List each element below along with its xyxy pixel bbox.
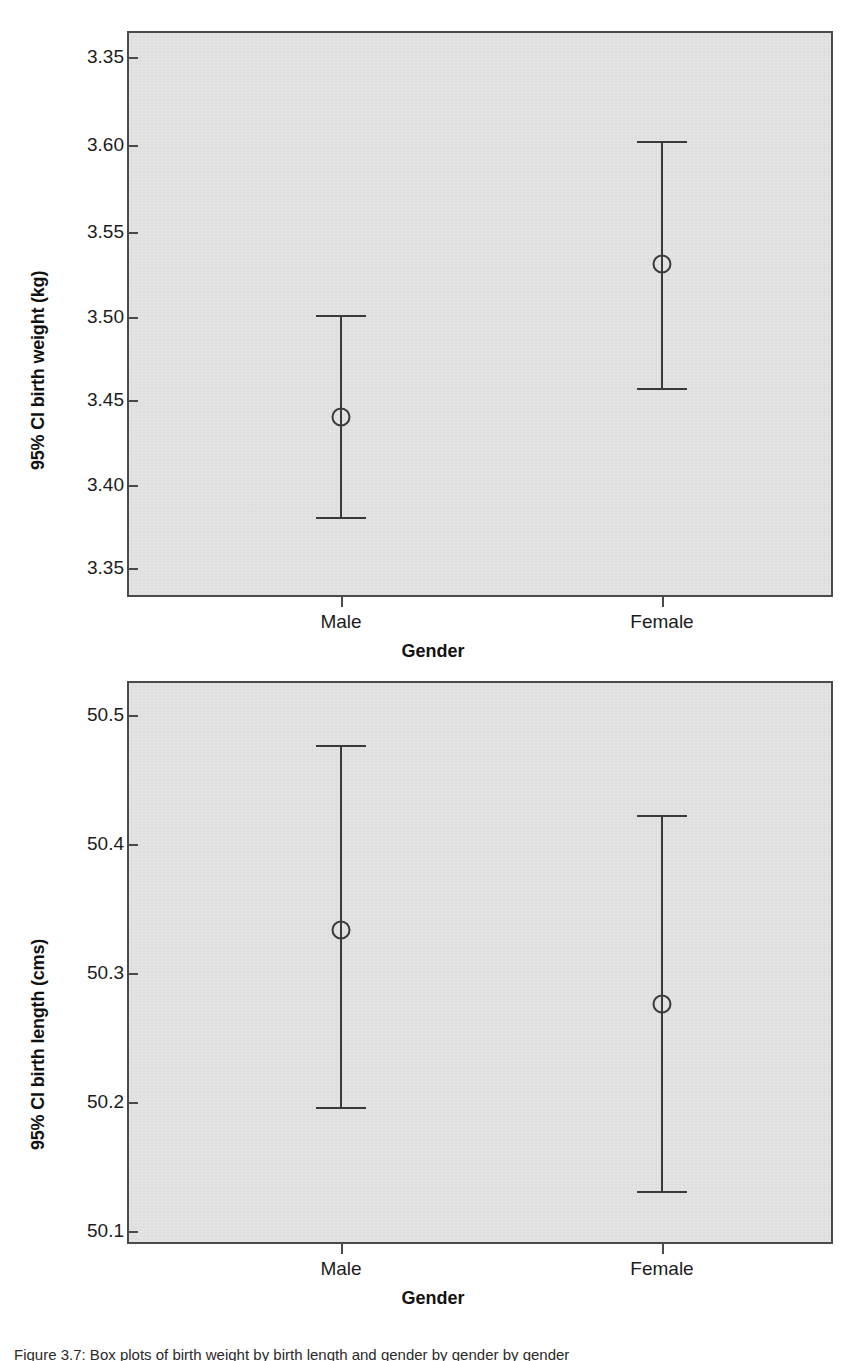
- y-tick-mark: [127, 317, 138, 319]
- y-tick-label: 3.45: [87, 389, 124, 411]
- y-tick-label: 50.2: [87, 1091, 124, 1113]
- figure-panel: 95% CI birth weight (kg) 3.353.603.553.5…: [0, 0, 866, 1361]
- chart-birth-weight: 95% CI birth weight (kg) 3.353.603.553.5…: [0, 0, 866, 660]
- x-axis-label-length: Gender: [0, 1288, 866, 1309]
- y-tick-label: 3.50: [87, 306, 124, 328]
- y-tick-label: 3.35: [87, 557, 124, 579]
- error-bar-lower-cap: [637, 1191, 687, 1193]
- error-bar-lower-cap: [316, 517, 366, 519]
- x-tick-label-male: Male: [320, 1258, 361, 1280]
- plot-area-length: [127, 681, 833, 1244]
- y-tick-label: 50.3: [87, 962, 124, 984]
- x-tick-mark-male: [341, 1244, 343, 1254]
- y-tick-mark: [127, 973, 138, 975]
- x-tick-mark-female: [662, 1244, 664, 1254]
- y-tick-mark: [127, 485, 138, 487]
- y-tick-label: 50.5: [87, 704, 124, 726]
- x-tick-mark-female: [662, 597, 664, 607]
- error-bar-lower-cap: [637, 388, 687, 390]
- y-axis-label-length: 95% CI birth length (cms): [28, 939, 49, 1150]
- x-axis-label-weight: Gender: [0, 641, 866, 662]
- y-tick-mark: [127, 715, 138, 717]
- y-tick-mark: [127, 232, 138, 234]
- y-tick-label: 50.4: [87, 833, 124, 855]
- y-tick-mark: [127, 1231, 138, 1233]
- y-tick-mark: [127, 57, 138, 59]
- error-bar-lower-cap: [316, 1107, 366, 1109]
- y-tick-label: 3.35: [87, 46, 124, 68]
- mean-marker: [653, 255, 672, 274]
- y-tick-label: 3.60: [87, 134, 124, 156]
- y-tick-label: 3.55: [87, 221, 124, 243]
- mean-marker: [653, 995, 672, 1014]
- y-tick-mark: [127, 1102, 138, 1104]
- figure-caption: Figure 3.7: Box plots of birth weight by…: [14, 1347, 854, 1361]
- plot-area-weight: [127, 31, 833, 597]
- x-tick-mark-male: [341, 597, 343, 607]
- mean-marker: [332, 921, 351, 940]
- y-tick-mark: [127, 844, 138, 846]
- error-bar-upper-cap: [316, 315, 366, 317]
- error-bar-upper-cap: [637, 141, 687, 143]
- y-tick-mark: [127, 568, 138, 570]
- mean-marker: [332, 408, 351, 427]
- y-tick-mark: [127, 400, 138, 402]
- chart-birth-length: 95% CI birth length (cms) 50.550.450.350…: [0, 660, 866, 1300]
- x-tick-label-female: Female: [630, 611, 693, 633]
- y-tick-label: 50.1: [87, 1220, 124, 1242]
- y-tick-mark: [127, 145, 138, 147]
- x-tick-label-female: Female: [630, 1258, 693, 1280]
- y-axis-label-weight: 95% CI birth weight (kg): [28, 271, 49, 470]
- error-bar-upper-cap: [316, 745, 366, 747]
- error-bar-upper-cap: [637, 815, 687, 817]
- x-tick-label-male: Male: [320, 611, 361, 633]
- y-tick-label: 3.40: [87, 474, 124, 496]
